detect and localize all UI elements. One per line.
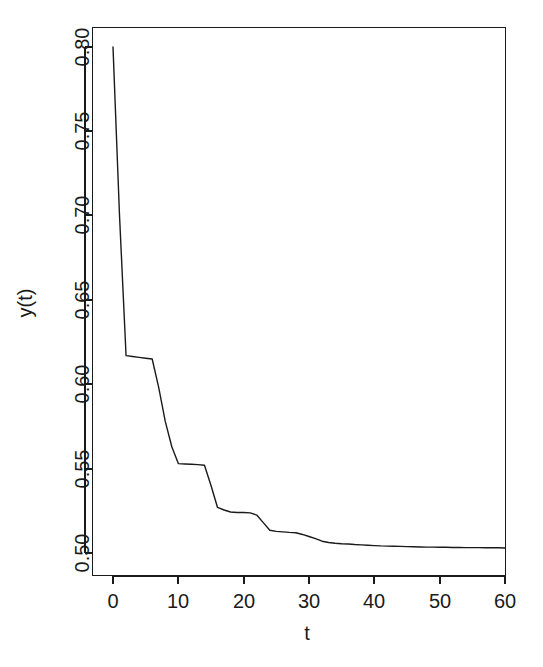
y-tick-label: 0.55 — [71, 450, 93, 489]
y-axis-title: y(t) — [14, 289, 36, 318]
plot-frame — [93, 28, 506, 576]
x-tick-label: 30 — [298, 590, 320, 612]
x-tick-label: 10 — [167, 590, 189, 612]
x-tick-label: 0 — [107, 590, 118, 612]
plot-figure: 0.80 0.75 0.70 0.65 0.60 0.55 0.50 y(t) … — [0, 0, 543, 667]
plot-canvas: 0.80 0.75 0.70 0.65 0.60 0.55 0.50 y(t) … — [0, 0, 543, 667]
y-axis-tick-labels: 0.80 0.75 0.70 0.65 0.60 0.55 0.50 — [71, 28, 93, 573]
y-tick-label: 0.70 — [71, 196, 93, 235]
x-tick-label: 20 — [233, 590, 255, 612]
data-series-line — [113, 47, 505, 548]
x-tick-label: 40 — [363, 590, 385, 612]
y-tick-label: 0.80 — [71, 28, 93, 67]
x-axis-title: t — [304, 622, 310, 644]
y-tick-label: 0.65 — [71, 281, 93, 320]
x-axis-tick-labels: 0 10 20 30 40 50 60 — [107, 590, 516, 612]
x-tick-label: 50 — [429, 590, 451, 612]
x-tick-label: 60 — [494, 590, 516, 612]
x-axis-ticks — [113, 576, 505, 584]
y-tick-label: 0.75 — [71, 112, 93, 151]
y-tick-label: 0.50 — [71, 534, 93, 573]
y-tick-label: 0.60 — [71, 365, 93, 404]
